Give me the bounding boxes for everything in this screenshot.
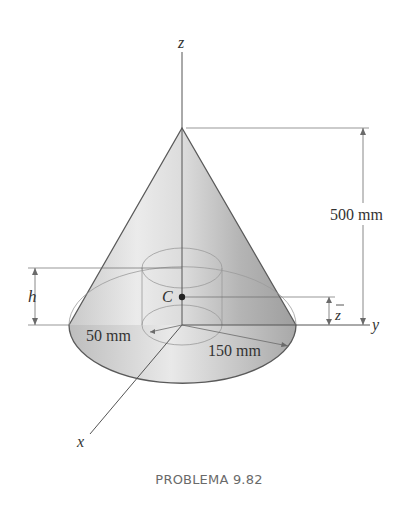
- centroid-height-label: z: [334, 307, 341, 323]
- cone-with-cylindrical-hole-diagram: 500 mm h C z 50 mm 150 mm z y x: [0, 0, 418, 508]
- inner-radius-label: 50 mm: [86, 327, 131, 344]
- centroid-point: [179, 294, 185, 300]
- total-height-label: 500 mm: [330, 206, 383, 223]
- centroid-label: C: [162, 288, 173, 305]
- figure-caption: PROBLEMA 9.82: [0, 472, 418, 487]
- x-axis-label: x: [76, 433, 84, 450]
- y-axis-label: y: [370, 316, 380, 334]
- z-axis-label: z: [177, 34, 185, 51]
- hole-depth-label: h: [28, 287, 37, 306]
- outer-radius-label: 150 mm: [208, 342, 261, 359]
